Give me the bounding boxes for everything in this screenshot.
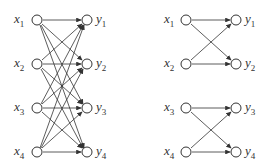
label-x2-left: x2 <box>14 56 24 73</box>
diagram-canvas <box>0 0 271 165</box>
label-y1-right: y1 <box>245 12 255 29</box>
label-x3-right: x3 <box>164 100 174 117</box>
label-x2-right: x2 <box>164 56 174 73</box>
label-x3-left: x3 <box>14 100 24 117</box>
label-y3-left: y3 <box>96 100 106 117</box>
label-x4-left: x4 <box>14 144 24 161</box>
label-y4-right: y4 <box>245 144 255 161</box>
label-x4-right: x4 <box>164 144 174 161</box>
label-y1-left: y1 <box>96 12 106 29</box>
label-y4-left: y4 <box>96 144 106 161</box>
pair-graph-nodes <box>181 15 241 157</box>
label-y2-right: y2 <box>245 56 255 73</box>
full-graph-edges <box>40 20 84 152</box>
label-x1-right: x1 <box>164 12 174 29</box>
label-x1-left: x1 <box>14 12 24 29</box>
label-y2-left: y2 <box>96 56 106 73</box>
pair-graph-edges <box>191 20 231 152</box>
label-y3-right: y3 <box>245 100 255 117</box>
